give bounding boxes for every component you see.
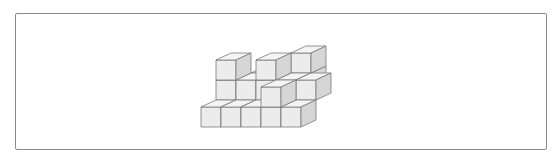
cube-front-face: [201, 107, 221, 127]
cube-front-face: [216, 60, 236, 80]
cube-front-face: [221, 107, 241, 127]
cube-front-face: [261, 107, 281, 127]
cube-front-face: [291, 53, 311, 73]
cube-front-face: [241, 107, 261, 127]
cube-front-face: [216, 80, 236, 100]
cube-stack-diagram: [0, 0, 560, 164]
cube-front-face: [281, 107, 301, 127]
cube-front-face: [261, 87, 281, 107]
cube-front-face: [296, 80, 316, 100]
cube-front-face: [256, 60, 276, 80]
cube-front-face: [236, 80, 256, 100]
